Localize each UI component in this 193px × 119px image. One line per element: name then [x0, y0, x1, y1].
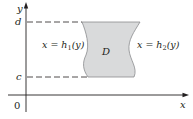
region-d [82, 22, 140, 77]
c-label: c [16, 71, 22, 82]
x-axis-arrow-icon [183, 93, 190, 97]
region-diagram: y x 0 d c D x = h1(y) x = h2(y) [0, 0, 193, 119]
left-curve-equation: x = h1(y) [42, 39, 85, 52]
d-label: d [15, 16, 21, 27]
right-curve-equation: x = h2(y) [137, 39, 180, 52]
x-axis-label: x [180, 99, 186, 110]
y-axis-label: y [16, 3, 23, 14]
y-axis-arrow-icon [24, 2, 28, 9]
origin-label: 0 [14, 100, 20, 111]
region-label: D [101, 46, 110, 57]
